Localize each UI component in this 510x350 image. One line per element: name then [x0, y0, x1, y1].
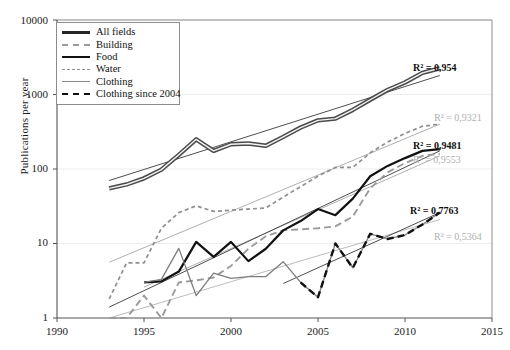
x-tick-1995: 1995 — [120, 325, 168, 337]
legend-item-water[interactable]: Water — [61, 63, 175, 75]
y-tick-10000: 10000 — [2, 14, 48, 26]
chart-legend: All fields Building Food Water Clothing — [56, 22, 180, 105]
legend-swatch-building — [61, 39, 91, 51]
legend-swatch-food — [61, 51, 91, 63]
series-line-building — [109, 154, 440, 318]
legend-label-all-fields: All fields — [96, 26, 135, 38]
legend-label-building: Building — [96, 39, 133, 51]
x-tick-2005: 2005 — [294, 325, 342, 337]
y-axis-title: Publications per year — [18, 56, 30, 196]
trendline-water-trend — [109, 124, 440, 262]
trendline-food-trend — [109, 151, 440, 307]
y-tick-1: 1 — [2, 311, 48, 323]
legend-item-all-fields[interactable]: All fields — [61, 26, 175, 38]
legend-swatch-clothing — [61, 76, 91, 88]
legend-label-water: Water — [96, 63, 121, 75]
r2-annotation-food: R² = 0,9481 — [413, 140, 461, 151]
trendline-building-trend — [144, 156, 440, 287]
r2-annotation-clothing: R² = 0,5364 — [434, 231, 482, 242]
trendline-clothing-since-2004-trend — [283, 213, 440, 284]
r2-annotation-water: R² = 0,9321 — [434, 112, 482, 123]
legend-swatch-all-fields — [61, 26, 91, 38]
legend-item-building[interactable]: Building — [61, 38, 175, 50]
chart-figure: Publications per year 10000 1000 100 10 … — [0, 0, 510, 350]
y-tick-1000: 1000 — [2, 88, 48, 100]
legend-item-clothing-since-2004[interactable]: Clothing since 2004 — [61, 88, 175, 100]
y-tick-10: 10 — [2, 236, 48, 248]
r2-annotation-all-fields: R² = 0,954 — [413, 62, 456, 73]
legend-label-food: Food — [96, 51, 118, 63]
legend-swatch-clothing-since-2004 — [61, 88, 91, 100]
legend-label-clothing: Clothing — [96, 76, 133, 88]
x-tick-1990: 1990 — [33, 325, 81, 337]
legend-item-clothing[interactable]: Clothing — [61, 76, 175, 88]
series-line-water — [109, 124, 440, 299]
legend-item-food[interactable]: Food — [61, 51, 175, 63]
legend-swatch-water — [61, 63, 91, 75]
r2-annotation-building: R² = 0,9553 — [413, 154, 461, 165]
r2-annotation-clothing-2004: R² = 0,7763 — [410, 205, 458, 216]
x-tick-2000: 2000 — [207, 325, 255, 337]
x-tick-2010: 2010 — [381, 325, 429, 337]
y-tick-100: 100 — [2, 162, 48, 174]
x-tick-2015: 2015 — [468, 325, 510, 337]
legend-label-clothing-since-2004: Clothing since 2004 — [96, 88, 181, 100]
